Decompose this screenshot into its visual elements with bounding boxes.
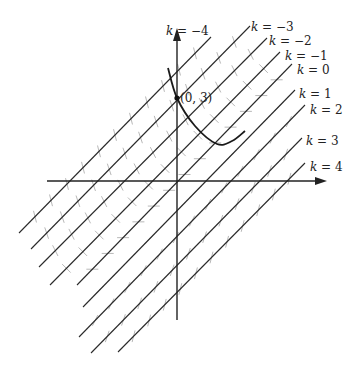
- isocline-label-k1: k = 1: [299, 87, 332, 101]
- initial-point-label: (0, 3): [180, 91, 212, 105]
- isocline-k1: [83, 90, 295, 307]
- x-axis-arrow-icon: [315, 177, 327, 185]
- isocline-label-k-1: k = −1: [285, 49, 328, 63]
- isocline-k4: [118, 163, 305, 352]
- initial-point-marker: [174, 95, 179, 100]
- solution-curve: [168, 68, 245, 145]
- isocline-label-k-2: k = −2: [269, 34, 312, 48]
- isocline-k-3: [31, 26, 250, 249]
- isocline-label-k4: k = 4: [310, 160, 343, 174]
- isocline-k3: [91, 138, 302, 353]
- isocline-label-k-4: k = −4: [166, 24, 209, 38]
- isocline-label-k3: k = 3: [306, 134, 339, 148]
- isocline-lines: [19, 26, 305, 353]
- isocline-label-k2: k = 2: [310, 103, 343, 117]
- slope-field-ticks: [34, 36, 292, 342]
- isocline-diagram: (0, 3) k = −4k = −3k = −2k = −1k = 0k = …: [0, 0, 351, 370]
- isocline-k-1: [50, 52, 280, 285]
- isocline-k-2: [39, 38, 267, 267]
- isocline-label-k-3: k = −3: [251, 20, 294, 34]
- isocline-label-k0: k = 0: [297, 63, 330, 77]
- isocline-k-4: [19, 37, 211, 233]
